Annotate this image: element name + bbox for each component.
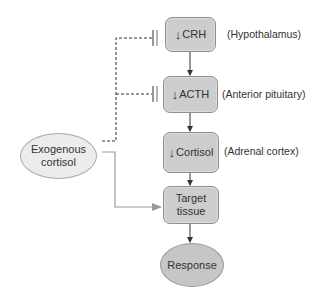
target-tissue-line2: tissue	[177, 205, 206, 218]
cortisol-label: Cortisol	[176, 146, 213, 159]
gray-arrow-exogenous-to-target	[102, 152, 161, 207]
crh-node: ↓ CRH	[165, 17, 216, 52]
cortisol-node: ↓ Cortisol	[163, 132, 219, 173]
exogenous-line2: cortisol	[41, 156, 76, 169]
exogenous-line1: Exogenous	[31, 143, 86, 156]
acth-node: ↓ ACTH	[163, 76, 218, 113]
response-node: Response	[160, 243, 224, 287]
inhibit-bars-acth	[153, 86, 157, 102]
exogenous-cortisol-node: Exogenous cortisol	[20, 133, 97, 179]
response-label: Response	[167, 259, 217, 272]
down-arrow-icon: ↓	[175, 28, 182, 41]
target-tissue-line1: Target	[176, 192, 207, 205]
dashed-inhibit-line-crh	[102, 38, 152, 141]
target-tissue-node: Target tissue	[163, 186, 219, 224]
anterior-pituitary-label: (Anterior pituitary)	[222, 88, 305, 100]
down-arrow-icon: ↓	[169, 146, 176, 159]
down-arrow-icon: ↓	[172, 88, 179, 101]
inhibit-bars-crh	[153, 30, 157, 46]
adrenal-cortex-label: (Adrenal cortex)	[224, 145, 299, 157]
acth-label: ACTH	[179, 88, 209, 101]
crh-label: CRH	[182, 28, 206, 41]
hypothalamus-label: (Hypothalamus)	[227, 28, 301, 40]
